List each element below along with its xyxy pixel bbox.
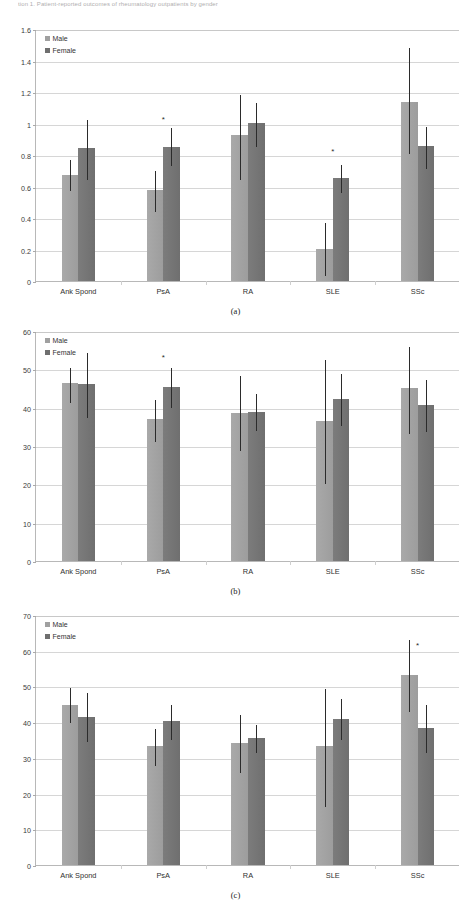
figure-top-caption: tion 1. Patient-reported outcomes of rhe… [0,0,471,9]
plot-area-a: 00.20.40.60.811.21.41.6Ank SpondPsARASLE… [35,30,459,282]
legend-item-female: Female [45,349,76,356]
error-bar [70,368,71,403]
bar-group: RA [206,616,291,865]
significance-asterisk: * [162,355,165,361]
error-bar [155,171,156,212]
bar-group: SLE [290,616,375,865]
x-axis-label-psa: PsA [156,287,170,296]
legend-swatch-male-icon [45,338,50,343]
bar-c-psa-female [163,721,180,865]
chart-panel-c: 010203040506070Ank SpondPsARASLESSc*Male… [0,604,471,904]
bar-c-sle-female [333,719,350,865]
panel-caption-c: (c) [0,890,471,900]
x-axis-label-psa: PsA [156,871,170,880]
x-axis-label-ssc: SSc [411,871,425,880]
legend-item-male: Male [45,337,76,344]
legend-item-female: Female [45,47,76,54]
y-tick-label: 40 [23,719,36,728]
x-axis-label-ssc: SSc [411,567,425,576]
error-bar [426,127,427,170]
legend-swatch-male-icon [45,36,50,41]
legend-label-male: Male [53,621,68,628]
bar-group: RA [206,332,291,561]
chart-legend-b: MaleFemale [45,337,76,361]
legend-swatch-female-icon [45,350,50,355]
y-tick-label: 60 [23,328,36,337]
error-bar [256,103,257,147]
y-tick-label: 50 [23,366,36,375]
y-tick-label: 1 [27,120,36,129]
y-tick-label: 30 [23,754,36,763]
x-axis-label-ank-spond: Ank Spond [60,567,96,576]
bar-group: SSc [375,30,460,281]
x-axis-label-ra: RA [243,287,253,296]
error-bar [87,693,88,742]
x-axis-group-separator [121,865,122,869]
y-tick-label: 0.8 [21,152,36,161]
panel-caption-b: (b) [0,586,471,596]
legend-swatch-female-icon [45,634,50,639]
legend-item-male: Male [45,35,76,42]
x-axis-group-separator [375,281,376,285]
x-axis-label-ra: RA [243,567,253,576]
y-tick-label: 0.4 [21,215,36,224]
error-bar [426,380,427,433]
legend-label-male: Male [53,337,68,344]
y-tick-label: 0.6 [21,183,36,192]
error-bar [256,725,257,754]
chart-panel-b: 0102030405060Ank SpondPsARASLESSc*MaleFe… [0,320,471,598]
bar-a-psa-female [163,147,180,281]
y-tick-label: 0.2 [21,246,36,255]
y-tick-label: 1.6 [21,26,36,35]
error-bar [155,400,156,443]
error-bar [70,160,71,192]
legend-label-female: Female [53,633,76,640]
legend-label-female: Female [53,47,76,54]
legend-swatch-female-icon [45,48,50,53]
x-axis-group-separator [121,281,122,285]
error-bar [171,368,172,408]
error-bar [325,689,326,807]
error-bar [70,688,71,723]
y-tick-label: 10 [23,826,36,835]
error-bar [341,374,342,426]
y-tick-label: 1.2 [21,89,36,98]
bar-b-ank-spond-male [62,383,79,561]
bar-group: Ank Spond [36,30,121,281]
y-tick-label: 40 [23,404,36,413]
x-axis-label-ank-spond: Ank Spond [60,287,96,296]
chart-legend-c: MaleFemale [45,621,76,645]
error-bar [409,48,410,154]
error-bar [426,705,427,753]
bar-c-ra-female [248,738,265,865]
error-bar [409,347,410,433]
legend-label-male: Male [53,35,68,42]
x-axis-label-sle: SLE [326,871,340,880]
x-axis-group-separator [206,281,207,285]
y-tick-label: 0 [27,278,36,287]
panel-caption-a: (a) [0,306,471,316]
x-axis-label-ssc: SSc [411,287,425,296]
y-tick-label: 10 [23,519,36,528]
x-axis-label-psa: PsA [156,567,170,576]
error-bar [341,165,342,193]
x-axis-label-sle: SLE [326,287,340,296]
error-bar [87,120,88,181]
error-bar [240,376,241,450]
bar-group: PsA [121,30,206,281]
y-tick-label: 0 [27,558,36,567]
error-bar [325,223,326,277]
legend-label-female: Female [53,349,76,356]
plot-area-c: 010203040506070Ank SpondPsARASLESSc* [35,616,459,866]
bar-b-ra-female [248,412,265,562]
error-bar [155,729,156,766]
x-axis-label-ra: RA [243,871,253,880]
significance-asterisk: * [162,117,165,123]
x-axis-group-separator [206,865,207,869]
legend-item-female: Female [45,633,76,640]
y-tick-label: 20 [23,790,36,799]
plot-area-b: 0102030405060Ank SpondPsARASLESSc* [35,332,459,562]
significance-asterisk: * [331,149,334,155]
y-tick-label: 60 [23,647,36,656]
x-axis-group-separator [290,561,291,565]
